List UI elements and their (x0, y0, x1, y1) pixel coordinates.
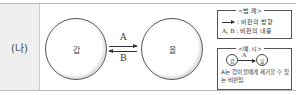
legend-title: <범 례> (236, 6, 264, 15)
example-edge-label: A (242, 51, 246, 58)
legend-row-arrow: : 비판의 방향 (222, 17, 273, 26)
example-description: A는 갑이 을에게 제기할 수 있는 비판임. (221, 68, 289, 84)
legend-box: <범 례> : 비판의 방향 A, B : 비판의 내용 (217, 10, 292, 39)
edge-group: A B (109, 32, 139, 64)
legend-ab-label: A, B (222, 27, 235, 34)
example-diagram: 갑 A 을 (224, 54, 284, 66)
edge-label-b: B (120, 53, 127, 63)
example-title: <예 시> (236, 44, 264, 53)
row-label: (나) (0, 4, 40, 90)
example-node-to: 을 (256, 54, 268, 66)
legend-row-ab: A, B : 비판의 내용 (222, 26, 272, 35)
diagram-frame: (나) 갑 A B 을 <범 례> : 비판의 방향 A, B : 비판의 내용… (0, 3, 296, 91)
node-gap: 갑 (45, 18, 107, 80)
arrow-right-icon (222, 22, 234, 23)
edge-label-a: A (120, 32, 127, 42)
node-eul: 을 (141, 18, 203, 80)
arrow-left-icon (109, 51, 137, 52)
legend-arrow-desc: : 비판의 방향 (237, 18, 273, 25)
arrow-right-icon (238, 60, 255, 61)
node-eul-label: 을 (169, 44, 176, 55)
example-node-from: 갑 (226, 54, 238, 66)
arrow-right-icon (109, 46, 137, 47)
node-gap-label: 갑 (73, 44, 80, 55)
example-box: <예 시> 갑 A 을 A는 갑이 을에게 제기할 수 있는 비판임. (217, 48, 292, 90)
legend-ab-desc: : 비판의 내용 (236, 27, 272, 34)
